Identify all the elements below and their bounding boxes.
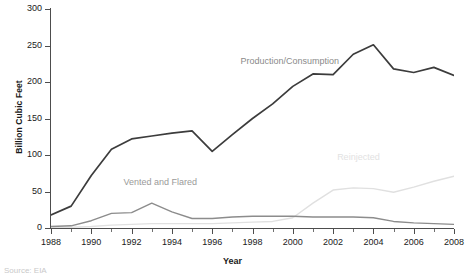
- x-tick-minor: [71, 229, 72, 232]
- x-tick: [132, 229, 133, 234]
- x-tick-minor: [313, 229, 314, 232]
- plot-area: [51, 9, 454, 228]
- x-tick: [253, 229, 254, 234]
- x-tick-minor: [353, 229, 354, 232]
- x-tick: [51, 229, 52, 234]
- x-tick-minor: [232, 229, 233, 232]
- x-tick-label: 1996: [192, 237, 232, 247]
- x-tick-minor: [111, 229, 112, 232]
- x-tick: [454, 229, 455, 234]
- y-tick-label: 0: [6, 223, 42, 232]
- x-tick-minor: [394, 229, 395, 232]
- series-label-vented: Vented and Flared: [124, 177, 198, 187]
- x-tick-minor: [192, 229, 193, 232]
- x-tick-label: 1998: [233, 237, 273, 247]
- x-tick: [414, 229, 415, 234]
- x-tick: [91, 229, 92, 234]
- x-tick-label: 1992: [112, 237, 152, 247]
- x-tick-label: 2004: [353, 237, 393, 247]
- y-tick-label: 300: [6, 4, 42, 13]
- x-tick-minor: [273, 229, 274, 232]
- x-tick: [172, 229, 173, 234]
- x-tick-label: 2008: [434, 237, 465, 247]
- x-tick: [333, 229, 334, 234]
- x-tick-label: 2006: [394, 237, 434, 247]
- x-tick-label: 1994: [152, 237, 192, 247]
- y-tick-label: 100: [6, 150, 42, 159]
- series-label-production: Production/Consumption: [240, 56, 339, 66]
- x-tick: [212, 229, 213, 234]
- y-tick-label: 150: [6, 114, 42, 123]
- y-tick-label: 200: [6, 77, 42, 86]
- x-tick-label: 2000: [273, 237, 313, 247]
- x-axis-title: Year: [0, 256, 465, 266]
- source-note: Source: EIA: [4, 266, 47, 275]
- series-line-vented-and-flared: [51, 203, 454, 226]
- chart-container: Billion Cubic Feet 050100150200250300 19…: [0, 0, 465, 276]
- x-tick-label: 2002: [313, 237, 353, 247]
- x-tick-minor: [152, 229, 153, 232]
- series-line-reinjected: [51, 176, 454, 228]
- x-tick-minor: [434, 229, 435, 232]
- x-tick-label: 1990: [71, 237, 111, 247]
- x-tick: [293, 229, 294, 234]
- y-tick-label: 50: [6, 187, 42, 196]
- series-line-production-consumption: [51, 45, 454, 215]
- x-tick: [373, 229, 374, 234]
- series-lines: [51, 9, 454, 228]
- series-label-reinjected: Reinjected: [337, 152, 380, 162]
- x-tick-label: 1988: [31, 237, 71, 247]
- y-tick-label: 250: [6, 41, 42, 50]
